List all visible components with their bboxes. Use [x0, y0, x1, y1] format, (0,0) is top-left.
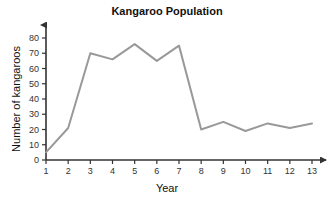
x-tick-label: 12	[285, 166, 295, 176]
x-tick-label: 13	[307, 166, 317, 176]
axis-ticks	[42, 38, 312, 164]
x-tick-label: 7	[176, 166, 181, 176]
x-tick-label: 10	[240, 166, 250, 176]
x-tick-label: 8	[199, 166, 204, 176]
axis-tick-labels: 0102030405060708012345678910111213	[29, 33, 317, 176]
x-tick-label: 1	[43, 166, 48, 176]
y-tick-label: 0	[34, 155, 39, 165]
y-tick-label: 10	[29, 140, 39, 150]
series-line-kangaroo-population	[46, 44, 312, 152]
plot-area: 0102030405060708012345678910111213	[0, 0, 334, 207]
data-series	[46, 44, 312, 152]
y-tick-label: 30	[29, 109, 39, 119]
x-tick-label: 5	[132, 166, 137, 176]
y-tick-label: 40	[29, 94, 39, 104]
x-tick-label: 2	[66, 166, 71, 176]
x-tick-label: 6	[154, 166, 159, 176]
x-tick-label: 9	[221, 166, 226, 176]
y-tick-label: 60	[29, 64, 39, 74]
y-tick-label: 50	[29, 79, 39, 89]
kangaroo-population-chart: Kangaroo Population Number of kangaroos …	[0, 0, 334, 207]
x-tick-label: 3	[88, 166, 93, 176]
y-tick-label: 80	[29, 33, 39, 43]
axes	[46, 25, 326, 160]
y-tick-label: 20	[29, 125, 39, 135]
x-tick-label: 11	[263, 166, 272, 176]
y-tick-label: 70	[29, 48, 39, 58]
x-tick-label: 4	[110, 166, 115, 176]
